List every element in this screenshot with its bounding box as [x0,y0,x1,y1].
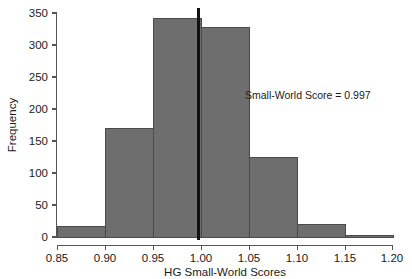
y-axis: 0 50 100 150 200 250 300 350 [29,7,57,243]
y-axis-tick-label: 350 [29,7,48,19]
y-axis-tick-label: 150 [29,135,48,147]
histogram-figure: 0 50 100 150 200 250 300 350 0.85 0.90 0… [0,0,412,279]
x-axis-tick-label: 0.85 [46,252,68,264]
y-axis-tick-label: 50 [35,199,48,211]
histogram-bar [57,226,105,237]
x-axis-tick-label: 1.20 [381,252,403,264]
y-axis-tick-label: 250 [29,71,48,83]
y-axis-title: Frequency [6,98,18,153]
small-world-score-label: Small-World Score = 0.997 [245,89,371,101]
x-axis-tick-label: 1.05 [238,252,260,264]
y-axis-tick-label: 300 [29,39,48,51]
histogram-bar [105,128,153,237]
x-axis-tick-label: 1.00 [190,252,212,264]
y-axis-tick-label: 100 [29,167,48,179]
histogram-bar [153,18,201,237]
x-axis-tick-label: 0.90 [94,252,116,264]
x-axis-tick-label: 1.15 [334,252,356,264]
histogram-bar [297,225,345,237]
x-axis-tick-label: 0.95 [142,252,164,264]
histogram-bar [249,157,297,237]
y-axis-tick-label: 0 [42,231,48,243]
histogram-bar [201,27,249,237]
x-axis: 0.85 0.90 0.95 1.00 1.05 1.10 1.15 1.20 [46,246,403,265]
y-axis-tick-label: 200 [29,103,48,115]
histogram-bar [345,236,393,237]
histogram-bars [57,18,393,237]
histogram-plot: 0 50 100 150 200 250 300 350 0.85 0.90 0… [0,0,412,279]
x-axis-title: HG Small-World Scores [164,266,286,278]
x-axis-tick-label: 1.10 [286,252,308,264]
